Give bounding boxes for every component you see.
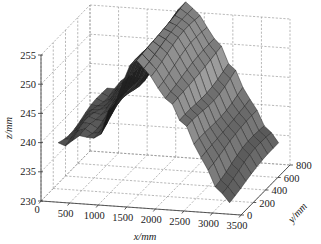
surface-mesh [58,2,279,203]
side-wall-grid-line [41,5,90,55]
x-tick-label: 500 [58,208,74,219]
x-tick [96,205,98,208]
x-tick-label: 1000 [84,210,105,221]
side-wall-grid-line [41,151,90,201]
z-tick-label: 250 [20,79,36,90]
z-axis-title: z/mm [3,116,14,140]
y-tick-label: 600 [284,173,300,184]
z-tick-label: 245 [20,108,36,119]
z-tick-label: 235 [20,166,36,177]
y-axis-title: y/mm [285,200,309,225]
x-tick [210,213,212,216]
y-tick-label: 0 [247,210,252,221]
x-tick-label: 2500 [169,216,190,227]
x-tick [182,211,184,214]
x-axis-title: x/mm [133,231,157,242]
x-tick [125,207,127,210]
surface-plot: 2302352402452502550500100015002000250030… [0,0,321,244]
y-tick-label: 800 [296,160,312,171]
z-tick-label: 255 [20,50,36,61]
x-tick [153,209,155,212]
y-tick-label: 200 [259,198,275,209]
x-tick-label: 1500 [112,212,133,223]
y-tick-label: 400 [272,185,288,196]
z-tick-label: 240 [20,137,36,148]
x-tick-label: 3000 [198,218,219,229]
x-tick-label: 3500 [227,220,248,231]
x-tick [68,203,70,206]
x-tick-label: 0 [34,204,39,215]
x-tick-label: 2000 [141,214,162,225]
x-tick [239,215,241,218]
floor-grid-line [127,157,176,207]
